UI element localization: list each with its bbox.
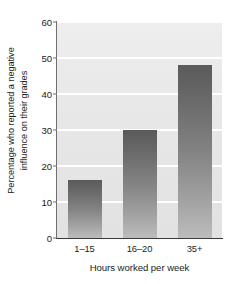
y-tick-label: 0	[34, 233, 52, 244]
y-tick-label: 10	[34, 197, 52, 208]
y-tick-label: 50	[34, 53, 52, 64]
gridline	[57, 57, 222, 59]
y-tick-mark	[53, 238, 57, 239]
y-axis-tick-labels: 0102030405060	[34, 0, 52, 284]
x-axis-title: Hours worked per week	[57, 262, 222, 273]
y-tick-mark	[53, 166, 57, 167]
x-axis-line	[56, 238, 223, 239]
y-tick-mark	[53, 22, 57, 23]
y-tick-mark	[53, 58, 57, 59]
y-axis-title-text: Percentage who reported a negative influ…	[5, 47, 30, 193]
y-tick-label: 20	[34, 161, 52, 172]
y-tick-label: 30	[34, 125, 52, 136]
bar-16-20	[123, 130, 157, 238]
bar-35+	[178, 65, 212, 238]
x-tick-label: 35+	[187, 243, 203, 254]
bar-chart-figure: Percentage who reported a negative influ…	[0, 0, 247, 284]
y-tick-label: 60	[34, 17, 52, 28]
plot-area	[57, 22, 222, 238]
y-axis-title-line-1: Percentage who reported a negative	[5, 47, 18, 193]
y-tick-mark	[53, 94, 57, 95]
x-tick-label: 1–15	[74, 243, 94, 254]
y-tick-mark	[53, 202, 57, 203]
bar-1-15	[68, 180, 102, 238]
y-axis-title-line-2: influence on their grades	[17, 47, 30, 193]
x-axis-tick-labels: 1–1516–2035+	[57, 243, 222, 259]
y-tick-label: 40	[34, 89, 52, 100]
x-tick-label: 16–20	[127, 243, 153, 254]
y-axis-title: Percentage who reported a negative influ…	[0, 0, 34, 240]
gridline	[57, 21, 222, 23]
y-tick-mark	[53, 130, 57, 131]
